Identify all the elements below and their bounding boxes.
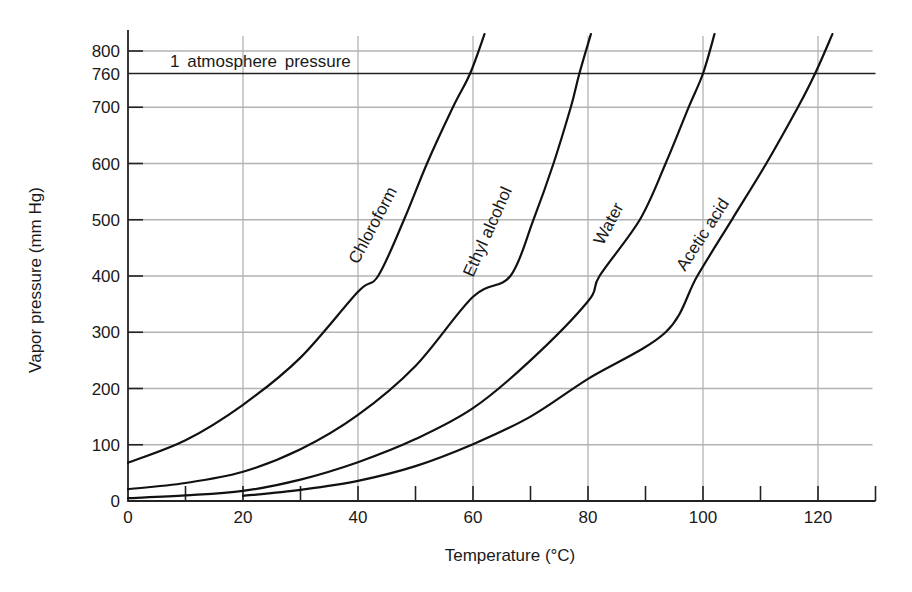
y-tick-label: 800 [92, 42, 120, 61]
curve-label-water: Water [590, 199, 628, 248]
y-tick-label: 100 [92, 436, 120, 455]
curve-labels: ChloroformEthyl alcoholWaterAcetic acid [345, 184, 733, 280]
x-tick-label: 0 [123, 508, 132, 527]
curve-label-chloroform: Chloroform [345, 184, 401, 267]
y-tick-label: 300 [92, 323, 120, 342]
y-tick-label: 0 [111, 492, 120, 511]
x-tick-label: 20 [234, 508, 253, 527]
y-tick-label: 500 [92, 211, 120, 230]
curve-acetic-acid [243, 34, 832, 496]
atmosphere-annotation: 1 atmosphere pressure [170, 52, 351, 71]
x-tick-label: 40 [349, 508, 368, 527]
curve-label-ethyl-alcohol: Ethyl alcohol [459, 184, 516, 280]
y-axis-title: Vapor pressure (mm Hg) [26, 187, 45, 373]
y-tick-label: 600 [92, 155, 120, 174]
y-tick-label: 400 [92, 267, 120, 286]
x-tick-label: 80 [579, 508, 598, 527]
x-tick-label: 120 [804, 508, 832, 527]
curve-water [128, 34, 715, 498]
x-axis-title: Temperature (°C) [445, 546, 576, 565]
x-tick-label: 100 [689, 508, 717, 527]
vapor-pressure-chart: 0204060801001200100200300400500600700760… [0, 0, 912, 592]
y-tick-label: 700 [92, 98, 120, 117]
y-tick-label: 760 [92, 65, 120, 84]
curve-chloroform [128, 34, 485, 463]
axes: 0204060801001200100200300400500600700760… [92, 30, 876, 527]
x-tick-label: 60 [464, 508, 483, 527]
y-tick-label: 200 [92, 380, 120, 399]
